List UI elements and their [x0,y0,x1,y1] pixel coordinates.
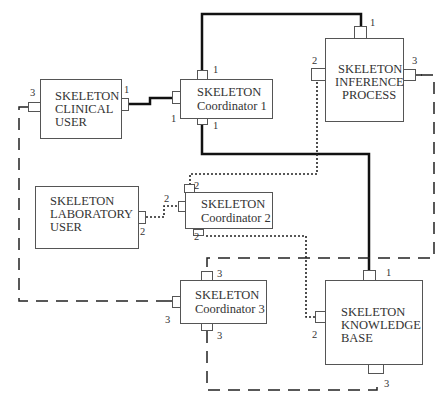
node-label-line: SKELETON [197,86,261,99]
port-number: 3 [217,330,222,341]
port-number: 3 [30,87,35,98]
port-number: 3 [412,55,417,66]
port-number: 3 [217,268,222,279]
port-number: 1 [386,267,391,278]
port-coordinator-3-top[interactable] [201,271,213,281]
port-number: 2 [312,55,317,66]
port-number: 2 [164,193,169,204]
port-inference-right[interactable] [403,69,416,81]
port-number: 2 [140,226,145,237]
port-coordinator-1-bottom[interactable] [197,118,208,125]
node-label-line: USER [55,116,87,129]
port-knowledge-base-top[interactable] [363,270,376,281]
node-coordinator-3[interactable]: SKELETON Coordinator 3 [180,280,267,324]
port-inference-left[interactable] [311,68,326,81]
port-clinical-user-3[interactable] [28,102,41,112]
node-label-line: BASE [341,332,373,345]
port-coordinator-3-left[interactable] [172,296,181,308]
port-number: 3 [384,378,389,389]
node-coordinator-1[interactable]: SKELETON Coordinator 1 [180,79,273,119]
port-coordinator-2-left[interactable] [178,201,186,212]
node-label-line: PROCESS [342,89,396,102]
port-coordinator-1-top[interactable] [197,70,208,80]
node-laboratory-user[interactable]: SKELETON LABORATORY USER [35,186,139,249]
node-label-line: USER [50,221,82,234]
port-number: 1 [171,113,176,124]
port-number: 1 [124,84,129,95]
node-label-line: SKELETON [195,289,259,302]
node-label-line: Coordinator 3 [195,303,265,316]
port-clinical-user-1[interactable] [121,98,129,111]
port-inference-top[interactable] [354,26,367,39]
port-number: 2 [194,180,199,191]
node-knowledge-base[interactable]: SKELETON KNOWLEDGE BASE [325,280,423,365]
node-coordinator-2[interactable]: SKELETON Coordinator 2 [185,192,273,229]
port-number: 3 [165,314,170,325]
port-knowledge-base-bottom[interactable] [368,364,384,374]
port-knowledge-base-left[interactable] [315,311,326,323]
port-number: 2 [312,329,317,340]
node-clinical-user[interactable]: SKELETON CLINICAL USER [40,79,122,139]
port-number: 2 [194,231,199,242]
port-coordinator-1-left[interactable] [172,91,181,104]
port-laboratory-user-2[interactable] [138,211,146,224]
port-number: 1 [213,64,218,75]
port-coordinator-3-bottom[interactable] [201,323,213,331]
node-label-line: SKELETON [201,198,265,211]
node-inference-process[interactable]: SKELETON INFERENCE PROCESS [325,38,404,122]
port-number: 1 [370,17,375,28]
port-number: 1 [213,120,218,131]
node-label-line: Coordinator 1 [197,100,267,113]
node-label-line: Coordinator 2 [201,212,271,225]
